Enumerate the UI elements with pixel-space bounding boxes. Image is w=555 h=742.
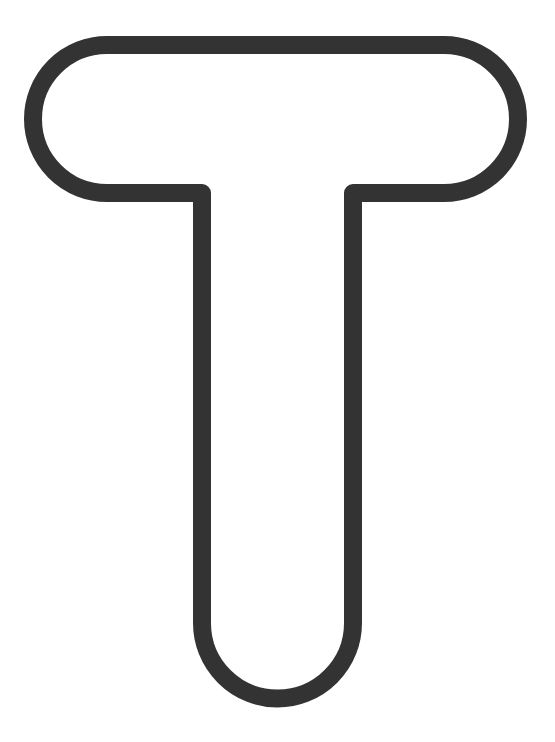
- letter-t-outline-svg: [0, 0, 555, 742]
- glyph-canvas: T: [0, 0, 555, 742]
- canvas-background: [0, 0, 555, 742]
